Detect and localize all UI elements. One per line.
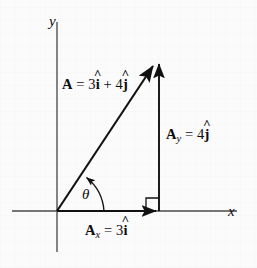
unit-vector-j: ^j (123, 76, 128, 93)
vector-A-name: A (62, 76, 73, 92)
x-axis-label: x (228, 203, 235, 220)
vector-A-plus: + (104, 76, 112, 92)
component-Ay-label: Ay = 4^j (166, 126, 209, 144)
angle-theta-label: θ (82, 186, 89, 203)
component-Ay-subscript: y (177, 133, 182, 144)
unit-vector-i: ^i (96, 76, 100, 93)
vector-A-equals: = (76, 76, 84, 92)
component-Ax-subscript: x (96, 229, 101, 240)
vector-A-label: A = 3^i + 4^j (62, 76, 128, 93)
component-Ax-name: A (85, 222, 96, 238)
hat-accent-j: ^ (121, 67, 129, 80)
hat-accent-i: ^ (122, 213, 130, 226)
vector-diagram-figure: y x θ A = 3^i + 4^j Ay = 4^j Ax = 3^i (0, 0, 257, 268)
diagram-canvas (0, 0, 257, 268)
component-Ay-equals: = (185, 126, 193, 142)
unit-vector-j: ^j (204, 126, 209, 143)
component-Ax-equals: = (104, 222, 112, 238)
component-Ax-label: Ax = 3^i (85, 222, 128, 240)
unit-vector-i: ^i (123, 222, 127, 239)
right-angle-marker (146, 198, 159, 211)
component-Ay-name: A (166, 126, 177, 142)
hat-accent-i: ^ (94, 67, 102, 80)
y-axis-label: y (49, 13, 56, 30)
hat-accent-j: ^ (203, 117, 211, 130)
